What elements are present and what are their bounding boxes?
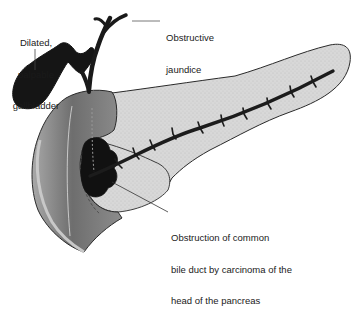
label-obstruction: Obstruction of common bile duct by carci…	[171, 212, 292, 310]
label-gallbladder-line-2: palpable	[10, 70, 62, 81]
hepatic-duct-left	[95, 19, 106, 26]
label-jaundice: Obstructive jaundice	[166, 12, 214, 86]
label-gallbladder-line-1: Dilated,	[10, 38, 62, 49]
label-gallbladder-line-3: gallbladder	[10, 101, 62, 112]
label-obstruction-line-1: Obstruction of common	[171, 233, 292, 244]
label-gallbladder: Dilated, palpable gallbladder	[10, 17, 62, 122]
cystic-duct	[82, 72, 89, 92]
label-obstruction-line-3: head of the pancreas	[171, 296, 292, 307]
label-jaundice-line-2: jaundice	[166, 65, 214, 76]
label-jaundice-line-1: Obstructive	[166, 33, 214, 44]
label-obstruction-line-2: bile duct by carcinoma of the	[171, 265, 292, 276]
